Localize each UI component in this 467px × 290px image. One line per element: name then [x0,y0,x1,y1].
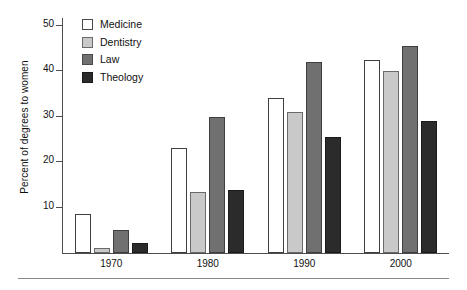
bar-medicine-1980 [171,148,187,253]
y-tickmark-20 [56,161,63,162]
legend-item-theology[interactable]: Theology [82,69,192,87]
y-tick-label-30: 30 [32,110,54,120]
legend-label-theology: Theology [100,72,143,83]
x-tick-label-1990: 1990 [274,258,334,270]
bar-law-1990 [306,62,322,253]
bar-law-1970 [113,230,129,253]
bar-theology-1980 [228,190,244,253]
bar-medicine-2000 [364,60,380,253]
legend-item-medicine[interactable]: Medicine [82,16,192,34]
y-tick-40: 40 [26,70,63,71]
y-tickmark-10 [56,207,63,208]
y-tickmark-50 [56,25,63,26]
y-tickmark-40 [56,70,63,71]
legend-swatch-law-icon [82,54,93,65]
bar-theology-2000 [421,121,437,253]
y-tick-30: 30 [26,116,63,117]
y-tick-50: 50 [26,25,63,26]
bar-theology-1970 [132,243,148,253]
x-tick-label-2000: 2000 [371,258,431,270]
legend-swatch-medicine-icon [82,19,93,30]
footer-divider [18,278,449,279]
y-axis-title: Percent of degrees to women [14,7,36,247]
x-axis-line [62,253,449,254]
bar-dentistry-2000 [383,71,399,253]
legend: Medicine Dentistry Law Theology [82,16,192,86]
y-tick-20: 20 [26,161,63,162]
bar-law-1980 [209,117,225,254]
legend-label-law: Law [100,54,119,65]
legend-label-dentistry: Dentistry [100,37,141,48]
bar-dentistry-1990 [287,112,303,253]
x-tick-label-1980: 1980 [178,258,238,270]
legend-swatch-dentistry-icon [82,37,93,48]
legend-label-medicine: Medicine [100,19,142,30]
y-tick-label-10: 10 [32,201,54,211]
y-tick-10: 10 [26,207,63,208]
y-tick-label-40: 40 [32,64,54,74]
y-tick-label-50: 50 [32,19,54,29]
legend-swatch-theology-icon [82,72,93,83]
legend-item-law[interactable]: Law [82,51,192,69]
y-tickmark-30 [56,116,63,117]
legend-item-dentistry[interactable]: Dentistry [82,34,192,52]
bar-dentistry-1980 [190,192,206,253]
x-tick-label-1970: 1970 [81,258,141,270]
bar-medicine-1970 [75,214,91,253]
bar-theology-1990 [325,137,341,253]
bar-chart-figure: Percent of degrees to women 50 40 30 20 … [0,0,467,290]
bar-law-2000 [402,46,418,253]
bar-medicine-1990 [268,98,284,253]
y-tick-label-20: 20 [32,155,54,165]
